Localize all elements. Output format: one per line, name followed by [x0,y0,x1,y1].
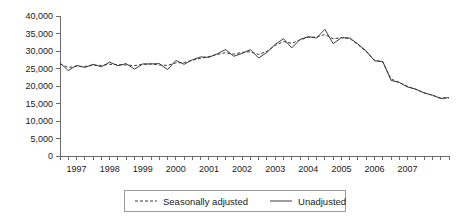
y-axis-tick-label: 15,000 [25,99,53,109]
x-axis-tick-label: 2007 [398,164,418,174]
y-axis-tick-label: 40,000 [25,11,53,21]
x-axis-tick-label: 2006 [364,164,384,174]
y-axis-tick-label: 10,000 [25,116,53,126]
x-axis-tick-label: 2005 [331,164,351,174]
x-axis-tick-label: 2004 [298,164,318,174]
x-axis-tick-label: 2003 [265,164,285,174]
line-chart-plot: 05,00010,00015,00020,00025,00030,00035,0… [0,0,456,222]
x-axis-tick-label: 1998 [100,164,120,174]
data-series-unadjusted [60,29,449,98]
y-axis-tick-label: 25,000 [25,64,53,74]
x-axis-tick-label: 2002 [232,164,252,174]
legend-label-unadjusted: Unadjusted [298,196,346,207]
solid-line-swatch-icon [270,197,292,205]
y-axis-tick-label: 20,000 [25,81,53,91]
data-series-seasonally-adjusted [60,35,449,98]
chart-legend: Seasonally adjusted Unadjusted [124,190,346,212]
y-axis-tick-label: 35,000 [25,29,53,39]
chart-container: 05,00010,00015,00020,00025,00030,00035,0… [0,0,456,222]
legend-entry-seasonally-adjusted: Seasonally adjusted [135,196,248,207]
dashed-line-swatch-icon [135,197,157,205]
y-axis-tick-label: 30,000 [25,46,53,56]
y-axis-tick-label: 0 [48,151,53,161]
legend-entry-unadjusted: Unadjusted [270,196,346,207]
y-axis-tick-label: 5,000 [30,134,53,144]
legend-label-seasonally-adjusted: Seasonally adjusted [163,196,248,207]
x-axis-tick-label: 2001 [199,164,219,174]
x-axis-tick-label: 1997 [67,164,87,174]
x-axis-tick-label: 2000 [166,164,186,174]
x-axis-tick-label: 1999 [133,164,153,174]
chart-axes [60,16,449,156]
